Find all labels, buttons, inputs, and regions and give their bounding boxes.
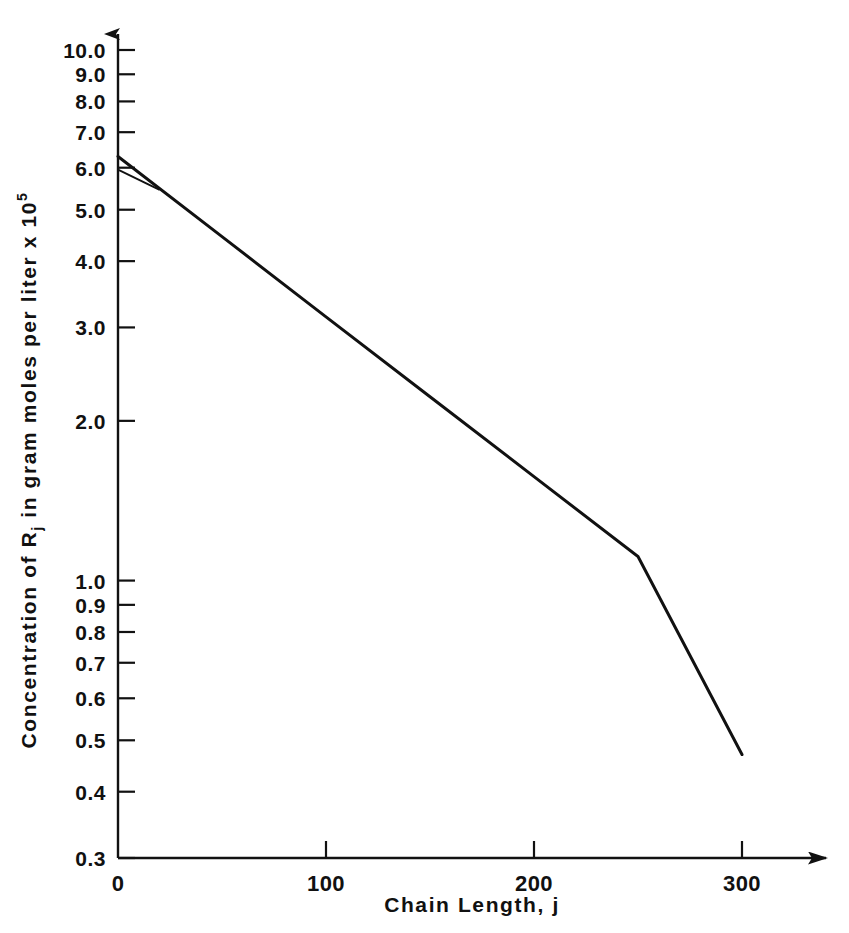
x-tick-label: 0 [112,871,125,896]
y-axis-title-main: Concentration of R [17,531,40,749]
y-tick-label: 8.0 [75,90,106,113]
y-tick-label: 0.7 [75,652,106,675]
x-axis-ticks [326,841,742,858]
y-axis-title: Concentration of Rj in gram moles per li… [14,192,45,749]
y-tick-label: 2.0 [75,410,106,433]
y-tick-label: 5.0 [75,199,106,222]
y-tick-label: 10.0 [63,39,106,62]
data-series-line [118,156,742,754]
y-tick-label: 9.0 [75,63,106,86]
x-tick-label: 100 [307,871,345,896]
x-axis-title-group: Chain Length, j [384,893,560,916]
y-axis-title-rest: in gram moles per liter x 10 [17,201,40,525]
y-tick-label: 7.0 [75,121,106,144]
y-tick-label: 6.0 [75,157,106,180]
y-axis-title-group: Concentration of Rj in gram moles per li… [14,192,45,749]
y-tick-label: 0.5 [75,729,106,752]
y-tick-label: 0.8 [75,621,106,644]
y-tick-label: 1.0 [75,570,106,593]
y-tick-label: 0.4 [75,781,106,804]
axis-lines [118,34,826,858]
y-tick-label: 0.6 [75,687,106,710]
y-axis-title-superscript: 5 [14,192,30,201]
y-tick-label: 3.0 [75,316,106,339]
chart-figure: 10.09.08.07.06.05.04.03.02.01.00.90.80.7… [0,0,849,933]
y-tick-label: 4.0 [75,250,106,273]
y-axis-tick-labels: 10.09.08.07.06.05.04.03.02.01.00.90.80.7… [63,39,106,870]
data-series-group [118,156,742,754]
x-tick-label: 300 [723,871,761,896]
y-tick-label: 0.3 [75,847,106,870]
semilog-plot: 10.09.08.07.06.05.04.03.02.01.00.90.80.7… [0,0,849,933]
y-tick-label: 0.9 [75,594,106,617]
x-axis-title: Chain Length, j [384,893,560,916]
